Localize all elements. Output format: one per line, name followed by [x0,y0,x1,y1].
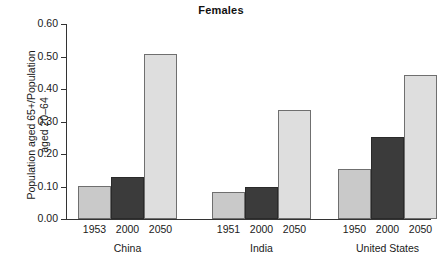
bar [371,137,404,219]
group-label: United States [338,242,437,254]
bar [278,110,311,219]
bar [78,186,111,219]
bar [212,192,245,219]
x-tick-label: 2000 [371,223,404,235]
y-tick-label: 0.50 [0,50,58,62]
chart-title: Females [0,4,442,16]
bar [338,169,371,219]
bar-chart: Females Population aged 65+/Population a… [0,0,442,266]
y-tick-label: 0.10 [0,180,58,192]
y-tick-label: 0.20 [0,147,58,159]
x-tick-label: 2050 [278,223,311,235]
x-tick-label: 2000 [111,223,144,235]
y-tick-label: 0.40 [0,82,58,94]
group-label: India [212,242,311,254]
plot-area [66,24,430,219]
x-tick-label: 2000 [245,223,278,235]
x-tick-label: 1951 [212,223,245,235]
bar [144,54,177,219]
x-tick-label: 1950 [338,223,371,235]
bar [404,75,437,219]
group-label: China [78,242,177,254]
y-tick-mark [61,219,67,220]
bar [245,187,278,219]
y-tick-label: 0.60 [0,17,58,29]
y-tick-label: 0.00 [0,212,58,224]
x-tick-label: 1953 [78,223,111,235]
x-tick-label: 2050 [144,223,177,235]
y-tick-label: 0.30 [0,115,58,127]
x-tick-label: 2050 [404,223,437,235]
x-axis-line [66,219,431,220]
bar [111,177,144,219]
